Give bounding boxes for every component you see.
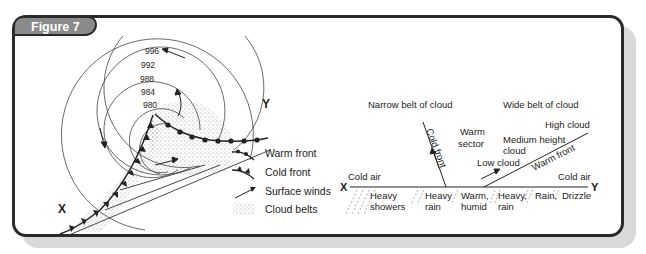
legend-item-cold-front: Cold front xyxy=(232,166,311,179)
legend-item-warm-front: Warm front xyxy=(232,147,317,160)
surface-winds-icon xyxy=(235,187,256,198)
weather-2-l1: Heavy xyxy=(425,190,452,201)
cold-air-right-label: Cold air xyxy=(558,171,591,182)
map-point-y: Y xyxy=(262,97,270,111)
warm-front-label: Warm front xyxy=(530,142,577,173)
weather-1-l2: showers xyxy=(370,201,406,212)
section-point-y: Y xyxy=(591,181,599,193)
weather-5-l1: Rain, xyxy=(535,190,557,201)
map-point-x: X xyxy=(58,202,66,216)
legend-item-cloud-belts: Cloud belts xyxy=(233,203,318,215)
legend-label: Warm front xyxy=(265,147,317,159)
isobar-980: 980 xyxy=(143,100,157,110)
weather-3-l1: Warm, xyxy=(461,190,489,201)
weather-2-l2: rain xyxy=(425,201,441,212)
weather-4-l2: rain xyxy=(498,201,514,212)
narrow-belt-label: Narrow belt of cloud xyxy=(368,99,452,110)
isobar-984: 984 xyxy=(141,87,155,97)
weather-3-l2: humid xyxy=(461,201,487,212)
cold-front-label: Cold front xyxy=(424,127,449,170)
low-cloud-label: Low cloud xyxy=(477,157,520,168)
cold-air-left-label: Cold air xyxy=(348,171,381,182)
legend-label: Cold front xyxy=(265,166,311,178)
cross-section: Narrow belt of cloud Wide belt of cloud … xyxy=(340,99,599,214)
isobar-996: 996 xyxy=(145,46,159,56)
cold-front-icon xyxy=(232,166,254,179)
medium-cloud-label-2: cloud xyxy=(503,145,526,156)
section-point-x: X xyxy=(340,181,348,193)
medium-cloud-label-1: Medium height xyxy=(503,134,566,145)
weather-4-l1: Heavy, xyxy=(498,190,527,201)
legend: Warm front Cold front Surface winds Clou… xyxy=(232,147,331,215)
legend-item-surface-winds: Surface winds xyxy=(235,185,331,198)
warm-sector-label-2: sector xyxy=(458,138,484,149)
weather-6-l1: Drizzle xyxy=(562,190,591,201)
figure-7-diagram: 996 992 988 984 980 xyxy=(0,0,646,254)
legend-label: Cloud belts xyxy=(265,203,318,215)
isobar-988: 988 xyxy=(140,74,154,84)
warm-sector-label-1: Warm xyxy=(460,126,485,137)
wide-belt-label: Wide belt of cloud xyxy=(503,99,579,110)
low-cloud-arrow xyxy=(481,171,497,179)
weather-1-l1: Heavy xyxy=(370,190,397,201)
high-cloud-label: High cloud xyxy=(545,119,590,130)
cloud-belts-icon xyxy=(233,203,255,215)
isobar-992: 992 xyxy=(141,60,155,70)
legend-label: Surface winds xyxy=(265,185,331,197)
